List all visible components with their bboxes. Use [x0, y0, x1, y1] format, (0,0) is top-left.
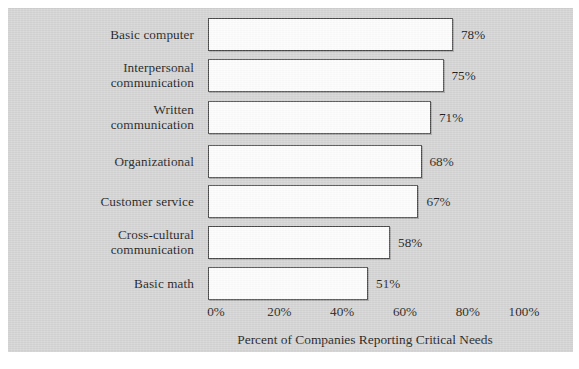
- chart-panel: Basic computer 78% Interpersonal communi…: [8, 8, 573, 352]
- category-label: Cross-cultural communication: [4, 227, 194, 258]
- bar[interactable]: [208, 101, 431, 134]
- bar[interactable]: [208, 226, 390, 259]
- category-label: Customer service: [4, 194, 194, 210]
- x-axis: 0% 20% 40% 60% 80% 100%: [8, 304, 573, 324]
- x-tick-label: 60%: [393, 304, 417, 320]
- x-tick-label: 20%: [267, 304, 291, 320]
- bar-row: Organizational 68%: [8, 145, 573, 178]
- bar-row: Basic math 51%: [8, 267, 573, 300]
- bar-row: Written communication 71%: [8, 101, 573, 134]
- bar[interactable]: [208, 145, 422, 178]
- bar-value-label: 75%: [452, 68, 476, 84]
- x-tick-label: 40%: [330, 304, 354, 320]
- bar[interactable]: [208, 185, 418, 218]
- bar[interactable]: [208, 267, 368, 300]
- bar-value-label: 71%: [439, 110, 463, 126]
- bar-value-label: 51%: [376, 276, 400, 292]
- bar-row: Basic computer 78%: [8, 18, 573, 51]
- bar-row: Interpersonal communication 75%: [8, 59, 573, 92]
- figure: Basic computer 78% Interpersonal communi…: [0, 0, 579, 369]
- x-tick-label: 0%: [207, 304, 225, 320]
- x-axis-title: Percent of Companies Reporting Critical …: [208, 332, 522, 348]
- category-label: Basic computer: [4, 27, 194, 43]
- bar-value-label: 58%: [398, 235, 422, 251]
- x-tick-label: 80%: [456, 304, 480, 320]
- x-tick-label: 100%: [509, 304, 540, 320]
- bar-value-label: 68%: [430, 154, 454, 170]
- category-label: Interpersonal communication: [4, 60, 194, 91]
- bar-value-label: 67%: [426, 194, 450, 210]
- bar[interactable]: [208, 18, 453, 51]
- bar-value-label: 78%: [461, 27, 485, 43]
- category-label: Written communication: [4, 102, 194, 133]
- category-label: Organizational: [4, 154, 194, 170]
- plot-area: Basic computer 78% Interpersonal communi…: [8, 8, 573, 352]
- bar-row: Customer service 67%: [8, 185, 573, 218]
- bar-row: Cross-cultural communication 58%: [8, 226, 573, 259]
- category-label: Basic math: [4, 276, 194, 292]
- bar[interactable]: [208, 59, 444, 92]
